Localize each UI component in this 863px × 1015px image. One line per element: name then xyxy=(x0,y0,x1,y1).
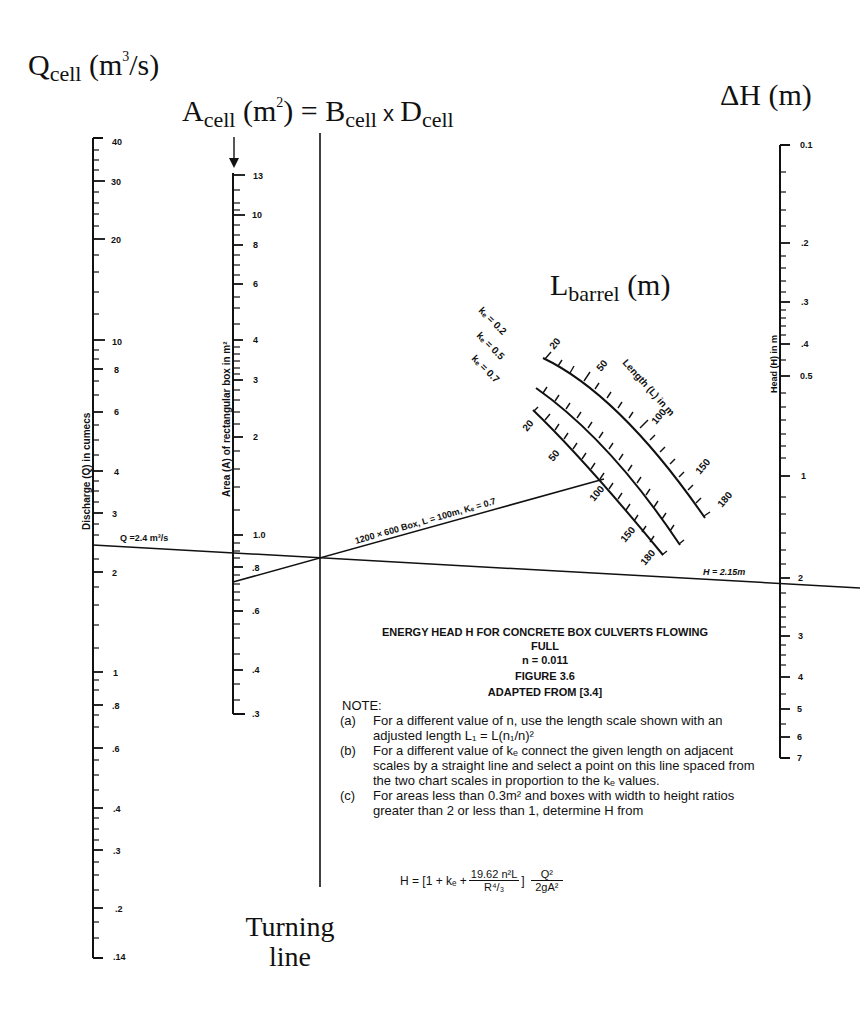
h-value-label: H = 2.15m xyxy=(703,567,745,577)
tick-label: 0.5 xyxy=(800,371,813,381)
tick-label: 1.0 xyxy=(253,530,266,540)
head-tick-labels: 0.1 .2 .3 .4 0.5 1 2 3 4 5 6 7 xyxy=(797,140,813,763)
tick-label: .8 xyxy=(112,701,120,711)
length-axis-title: Length (L) in m xyxy=(621,357,678,418)
tick-label: 50 xyxy=(594,357,610,373)
nomograph-canvas: Discharge (Q) in cumecs Area (A) of rect… xyxy=(0,0,863,1015)
discharge-axis-title: Discharge (Q) in cumecs xyxy=(81,412,92,530)
note-text: For a different value of kₑ connect the … xyxy=(373,743,755,788)
tick-label: .3 xyxy=(801,297,809,307)
tick-label: 1 xyxy=(113,668,118,678)
length-scale-ke07 xyxy=(533,410,663,555)
tick-label: 8 xyxy=(253,240,258,250)
length-scale-ke02 xyxy=(543,358,705,518)
tick-label: 13 xyxy=(253,171,263,181)
note-label: (b) xyxy=(340,743,373,788)
tick-label: .8 xyxy=(252,563,260,573)
tick-label: 3 xyxy=(798,631,803,641)
note-b: (b) For a different value of kₑ connect … xyxy=(340,743,755,788)
tick-label: .3 xyxy=(252,709,260,719)
tick-label: 3 xyxy=(253,375,258,385)
tick-label: 8 xyxy=(114,365,119,375)
tick-label: .4 xyxy=(113,804,121,814)
formula-fraction-1: 19.62 n²L R⁴/₃ xyxy=(469,868,519,893)
note-label: (c) xyxy=(340,788,373,818)
length-inner-labels: 20 50 100 150 180 xyxy=(520,417,657,567)
tick-label: .3 xyxy=(113,846,121,856)
caption-n-value: n = 0.011 xyxy=(335,653,755,667)
discharge-tick-labels: 40 30 20 10 8 6 4 3 2 1 .8 .6 .4 .3 .2 .… xyxy=(111,137,126,962)
tick-label: 10 xyxy=(112,337,122,347)
tick-label: .6 xyxy=(252,606,260,616)
tick-label: 2 xyxy=(798,573,803,583)
tick-label: 3 xyxy=(112,509,117,519)
notes-block: NOTE: (a) For a different value of n, us… xyxy=(340,698,755,818)
caption-figure-number: FIGURE 3.6 xyxy=(335,669,755,683)
tick-label: .4 xyxy=(252,665,260,675)
tick-label: 6 xyxy=(797,732,802,742)
head-formula: H = [1 + kₑ + 19.62 n²L R⁴/₃ ] Q² 2gA² xyxy=(400,868,563,893)
area-length-solution-line xyxy=(233,479,604,582)
tick-label: 150 xyxy=(693,456,712,476)
head-axis-title: Head (H) in m xyxy=(769,335,779,393)
down-arrow-icon xyxy=(229,158,239,168)
tick-label: 20 xyxy=(520,417,536,433)
caption-title-2: FULL xyxy=(335,639,755,653)
tick-label: 4 xyxy=(798,672,803,682)
tick-label: 180 xyxy=(715,489,734,509)
tick-label: 7 xyxy=(797,753,802,763)
tick-label: .14 xyxy=(113,952,126,962)
tick-label: .4 xyxy=(801,339,809,349)
tick-label: .6 xyxy=(112,744,120,754)
tick-label: 4 xyxy=(114,467,119,477)
formula-fraction-2: Q² 2gA² xyxy=(531,868,563,893)
note-label: (a) xyxy=(340,713,373,743)
note-text: For areas less than 0.3m² and boxes with… xyxy=(373,788,755,818)
caption-source: ADAPTED FROM [3.4] xyxy=(335,685,755,699)
tick-label: 30 xyxy=(111,177,121,187)
tick-label: .2 xyxy=(801,238,809,248)
tick-label: 50 xyxy=(546,447,562,463)
tick-label: 20 xyxy=(547,335,563,351)
area-tick-labels: 13 10 8 6 4 3 2 1.0 .8 .6 .4 .3 xyxy=(252,171,266,719)
note-text: For a different value of n, use the leng… xyxy=(373,713,755,743)
note-a: (a) For a different value of n, use the … xyxy=(340,713,755,743)
length-outer-labels: 20 50 100 150 180 xyxy=(547,335,734,509)
caption-title: ENERGY HEAD H FOR CONCRETE BOX CULVERTS … xyxy=(335,625,755,639)
tick-label: 6 xyxy=(114,407,119,417)
tick-label: 180 xyxy=(638,547,657,567)
note-c: (c) For areas less than 0.3m² and boxes … xyxy=(340,788,755,818)
notes-heading: NOTE: xyxy=(342,698,755,713)
tick-label: 0.1 xyxy=(800,140,813,150)
tick-label: 2 xyxy=(112,568,117,578)
formula-numerator-2: Q² xyxy=(531,868,563,881)
tick-label: 1 xyxy=(801,471,806,481)
formula-numerator: 19.62 n²L xyxy=(469,868,519,881)
figure-caption: ENERGY HEAD H FOR CONCRETE BOX CULVERTS … xyxy=(335,625,755,699)
formula-lhs: H = [1 + kₑ + xyxy=(400,874,467,888)
tick-label: 10 xyxy=(252,210,262,220)
tick-label: 5 xyxy=(797,704,802,714)
formula-denominator-2: 2gA² xyxy=(535,881,558,893)
ke-labels: kₑ = 0.2 kₑ = 0.5 kₑ = 0.7 xyxy=(470,305,510,386)
tick-label: 6 xyxy=(253,279,258,289)
tick-label: 20 xyxy=(111,235,121,245)
area-axis-title: Area (A) of rectangular box in m² xyxy=(221,341,232,497)
tick-label: .2 xyxy=(115,904,123,914)
tick-label: 4 xyxy=(253,335,258,345)
tick-label: 2 xyxy=(253,432,258,442)
tick-label: 40 xyxy=(112,137,122,147)
formula-bracket: ] xyxy=(521,874,524,888)
formula-denominator: R⁴/₃ xyxy=(484,881,504,893)
tick-label: 150 xyxy=(618,524,637,544)
box-line-label: 1200 × 600 Box, L = 100m, Kₑ = 0.7 xyxy=(354,496,497,546)
q-value-label: Q =2.4 m³/s xyxy=(120,533,168,543)
